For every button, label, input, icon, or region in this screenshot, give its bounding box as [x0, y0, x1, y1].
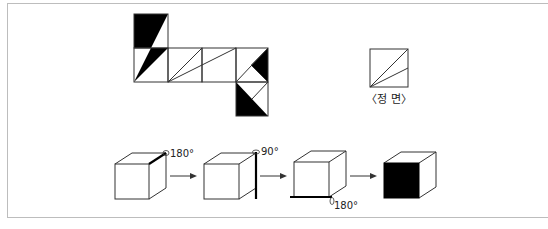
rotation-label-1: 180°: [170, 148, 194, 159]
net-square-a: [134, 14, 168, 48]
arrow-right-icon: [170, 173, 197, 179]
cube-1: [115, 153, 166, 199]
front-view: [370, 49, 408, 87]
net-square-e: [236, 48, 268, 82]
cube-net: [134, 14, 268, 116]
net-square-d: [202, 48, 236, 82]
net-square-c: [168, 48, 202, 82]
arrow-right-icon: [260, 173, 287, 179]
black-front-face: [384, 163, 419, 198]
rotation-label-3: 180°: [334, 200, 358, 211]
net-square-f: [236, 82, 268, 116]
net-square-b: [134, 48, 168, 82]
arrow-right-icon: [350, 173, 377, 179]
cube-2: [204, 152, 256, 199]
rotation-label-2: 90°: [261, 146, 279, 157]
cube-3: [290, 151, 346, 197]
cube-4-result: [384, 152, 436, 198]
front-view-label: 〈정 면〉: [366, 93, 412, 106]
